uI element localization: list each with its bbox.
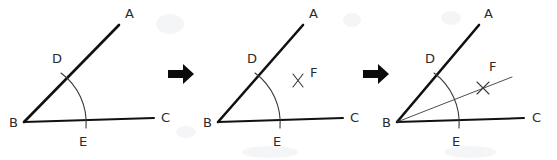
label-f: F [489, 59, 497, 74]
label-d: D [52, 51, 62, 66]
ray-ba [24, 25, 119, 122]
cross-mark-f [477, 82, 489, 94]
panel-1: A D B E C [9, 6, 170, 149]
step-arrow-1-icon [168, 64, 194, 84]
geometry-figure: A D B E C A D B E C F [0, 0, 557, 160]
label-a: A [309, 6, 318, 21]
label-e: E [79, 134, 87, 149]
label-b: B [9, 115, 18, 130]
label-e: E [452, 134, 460, 149]
label-c: C [350, 110, 359, 125]
label-f: F [310, 65, 318, 80]
label-d: D [425, 51, 435, 66]
label-b: B [203, 115, 212, 130]
label-a: A [125, 6, 134, 21]
paper-texture [156, 11, 496, 158]
panel-3: A D B E C F [382, 6, 541, 149]
label-a: A [484, 6, 493, 21]
label-c: C [161, 110, 170, 125]
ray-ba [218, 25, 303, 122]
label-c: C [532, 110, 541, 125]
step-arrow-2-icon [363, 64, 389, 84]
ray-bc [24, 118, 154, 122]
label-d: D [247, 51, 257, 66]
label-e: E [273, 134, 281, 149]
figure-canvas: A D B E C A D B E C F [0, 0, 557, 160]
label-b: B [382, 115, 391, 130]
panel-2: A D B E C F [203, 6, 359, 149]
ray-bc [397, 118, 524, 122]
ray-ba [397, 25, 479, 122]
angle-bisector-ray-bf [397, 77, 512, 122]
cross-mark-f [293, 74, 303, 87]
